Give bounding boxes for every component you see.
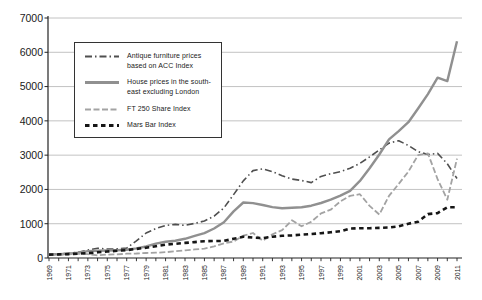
y-axis-label: 7000 <box>20 12 44 24</box>
x-axis-label: 1977 <box>123 265 130 281</box>
x-axis-label: 1995 <box>298 265 305 281</box>
chart-legend: Antique furniture prices based on ACC In… <box>74 42 222 138</box>
x-axis-label: 1985 <box>201 265 208 281</box>
legend-label-ft-250-share: FT 250 Share Index <box>127 104 191 114</box>
line-chart: 0100020003000400050006000700019691971197… <box>0 0 482 300</box>
x-axis-label: 2001 <box>356 265 363 281</box>
x-axis-label: 1971 <box>65 265 72 281</box>
x-axis-label: 2003 <box>376 265 383 281</box>
series-line-mars-bar <box>49 207 457 254</box>
x-axis-label: 2007 <box>415 265 422 281</box>
y-axis-label: 5000 <box>20 80 44 92</box>
x-axis-label: 2011 <box>454 265 461 280</box>
y-axis-label: 6000 <box>20 46 44 58</box>
x-axis-label: 2009 <box>434 265 441 281</box>
y-axis-label: 1000 <box>20 218 44 230</box>
legend-label-mars-bar: Mars Bar Index <box>127 120 176 130</box>
legend-item-antique-furniture: Antique furniture prices based on ACC In… <box>84 51 213 71</box>
y-axis-label: 0 <box>37 252 43 264</box>
legend-line-sample-house-prices <box>84 78 120 87</box>
x-axis-label: 1987 <box>220 265 227 281</box>
legend-line-sample-antique-furniture <box>84 52 120 61</box>
legend-line-sample-ft-250-share <box>84 105 120 114</box>
series-line-ft-250-share <box>49 153 457 255</box>
x-axis-label: 1989 <box>240 265 247 281</box>
x-axis-label: 2005 <box>395 265 402 281</box>
x-axis-label: 1973 <box>84 265 91 281</box>
series-line-antique-furniture <box>49 141 457 255</box>
x-axis-label: 1975 <box>104 265 111 281</box>
x-axis-label: 1979 <box>143 265 150 281</box>
x-axis-label: 1969 <box>46 265 53 281</box>
legend-label-antique-furniture: Antique furniture prices based on ACC In… <box>127 51 213 71</box>
x-axis-label: 1999 <box>337 265 344 281</box>
x-axis-labels: 1969197119731975197719791981198319851987… <box>46 258 461 281</box>
legend-item-ft-250-share: FT 250 Share Index <box>84 104 213 114</box>
y-axis-label: 4000 <box>20 115 44 127</box>
x-axis-label: 1983 <box>182 265 189 281</box>
y-axis-labels: 01000200030004000500060007000 <box>20 12 48 264</box>
legend-label-house-prices: House prices in the south-east excluding… <box>127 77 213 97</box>
legend-item-mars-bar: Mars Bar Index <box>84 120 213 130</box>
legend-line-sample-mars-bar <box>84 121 120 130</box>
y-axis-label: 3000 <box>20 149 44 161</box>
x-axis-label: 1981 <box>162 265 169 281</box>
y-axis-label: 2000 <box>20 183 44 195</box>
x-axis-label: 1991 <box>259 265 266 281</box>
legend-item-house-prices: House prices in the south-east excluding… <box>84 77 213 97</box>
x-axis-label: 1993 <box>279 265 286 281</box>
x-axis-label: 1997 <box>318 265 325 281</box>
chart-figure: 0100020003000400050006000700019691971197… <box>0 0 482 300</box>
